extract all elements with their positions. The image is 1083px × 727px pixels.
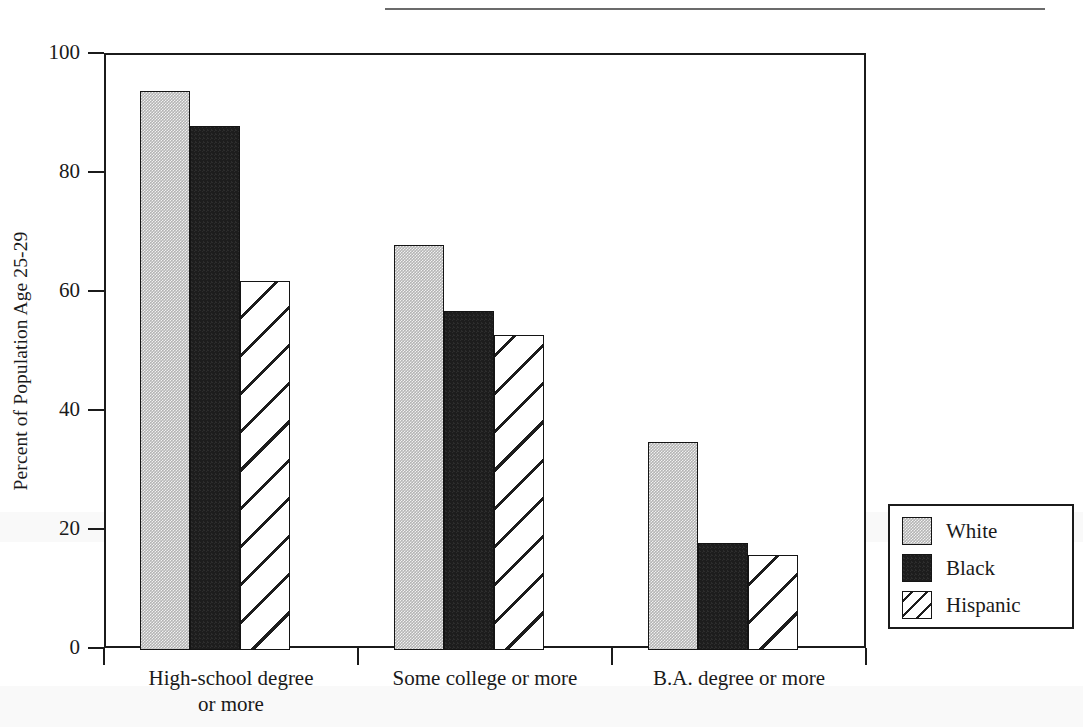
y-axis-tick-label: 60	[8, 280, 80, 301]
x-axis-tick-mark	[103, 648, 105, 665]
bar-black-group-2	[444, 311, 494, 650]
legend-entry-black: Black	[902, 551, 995, 585]
bar-black-group-1	[190, 126, 240, 650]
y-axis-tick-mark	[88, 52, 104, 54]
y-axis-tick-label: 0	[8, 637, 80, 658]
x-axis-label-line: or more	[104, 692, 358, 718]
x-axis-label-line: High-school degree	[104, 666, 358, 692]
legend-label: White	[946, 521, 997, 542]
bar-white-group-1	[140, 91, 190, 650]
bar-hispanic-group-2	[494, 335, 544, 650]
x-axis-label-line: Some college or more	[358, 666, 612, 692]
bar-hispanic-group-3	[748, 555, 798, 650]
hatched-swatch	[902, 591, 932, 619]
y-axis-title: Percent of Population Age 25-29	[10, 64, 36, 659]
bar-black-group-3	[698, 543, 748, 650]
y-axis-tick-mark	[88, 647, 104, 649]
y-axis-tick-label: 80	[8, 161, 80, 182]
x-axis-group-label-2: Some college or more	[358, 666, 612, 692]
y-axis-tick-mark	[88, 290, 104, 292]
y-axis-tick-label: 40	[8, 399, 80, 420]
bar-white-group-2	[394, 245, 444, 650]
y-axis-tick-label: 100	[8, 42, 80, 63]
x-axis-label-line: B.A. degree or more	[612, 666, 866, 692]
gray-solid-swatch	[902, 517, 932, 545]
x-axis-tick-mark	[357, 648, 359, 665]
y-axis-tick-mark	[88, 171, 104, 173]
chart-legend: WhiteBlackHispanic	[888, 504, 1074, 629]
black-solid-swatch	[902, 554, 932, 582]
y-axis-tick-label: 20	[8, 518, 80, 539]
legend-entry-hispanic: Hispanic	[902, 588, 1021, 622]
legend-label: Black	[946, 558, 995, 579]
x-axis-group-label-3: B.A. degree or more	[612, 666, 866, 692]
plot-area	[104, 53, 866, 648]
legend-entry-white: White	[902, 514, 997, 548]
x-axis-tick-mark	[865, 648, 867, 665]
bar-chart-figure: Percent of Population Age 25-29 02040608…	[0, 0, 1083, 727]
bar-hispanic-group-1	[240, 281, 290, 650]
legend-label: Hispanic	[946, 595, 1021, 616]
y-axis-tick-mark	[88, 528, 104, 530]
x-axis-tick-mark	[611, 648, 613, 665]
x-axis-group-label-1: High-school degreeor more	[104, 666, 358, 717]
bar-white-group-3	[648, 442, 698, 650]
y-axis-tick-mark	[88, 409, 104, 411]
